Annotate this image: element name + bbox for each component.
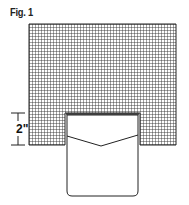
dimension-label: 2" bbox=[16, 122, 28, 136]
diagram-canvas bbox=[0, 0, 189, 205]
pocket-outline bbox=[67, 115, 138, 196]
